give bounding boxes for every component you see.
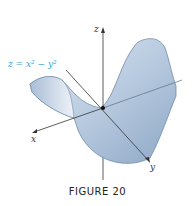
origin-point: [101, 106, 105, 110]
saddle-figure: z = x² − y² z x y FIGURE 20: [0, 0, 195, 206]
y-axis-label: y: [150, 162, 155, 172]
x-axis-label: x: [31, 134, 36, 144]
equation-label: z = x² − y²: [8, 59, 57, 69]
z-axis-arrow: [101, 27, 105, 33]
x-axis-arrow: [32, 129, 37, 133]
z-axis-label: z: [94, 24, 99, 34]
figure-caption: FIGURE 20: [0, 186, 195, 197]
surface-left-fold: [30, 77, 74, 118]
